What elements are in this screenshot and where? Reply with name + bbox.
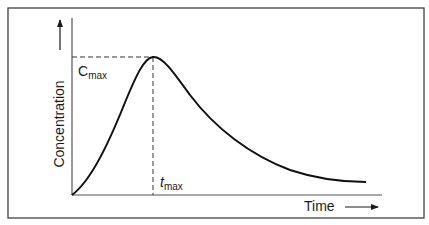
concentration-curve [72,57,366,195]
chart: Cmax tmax Concentration Time [0,0,429,225]
y-axis-label: Concentration [51,80,67,167]
x-axis-label: Time [304,198,335,214]
chart-frame [8,8,424,218]
cmax-label: Cmax [78,63,107,81]
tmax-label: tmax [160,174,183,192]
